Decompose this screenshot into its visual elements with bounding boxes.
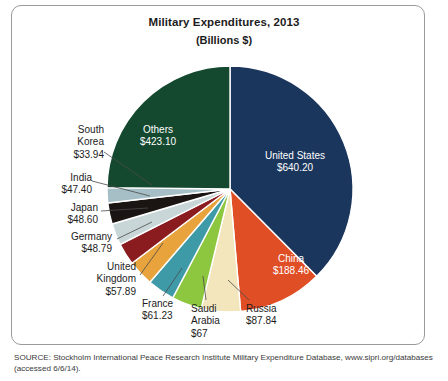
pie-label-united-states: United States $640.20 <box>250 150 340 175</box>
pie-label-united-kingdom-name: United <box>50 261 136 273</box>
source-note-line1: SOURCE: Stockholm International Peace Re… <box>14 352 434 363</box>
pie-label-united-states-value: $640.20 <box>250 162 340 174</box>
pie-label-india-name: India <box>20 172 92 184</box>
pie-label-japan: Japan $48.60 <box>26 202 98 227</box>
pie-label-saudi-arabia-name: Saudi <box>191 303 247 315</box>
pie-label-saudi-arabia-name2: Arabia <box>191 315 247 327</box>
pie-label-france-name: France <box>142 298 198 310</box>
pie-label-saudi-arabia: Saudi Arabia $67 <box>191 303 247 340</box>
pie-label-france-value: $61.23 <box>142 310 198 322</box>
pie-label-japan-name: Japan <box>26 202 98 214</box>
pie-label-south-korea: South Korea $33.94 <box>28 124 104 161</box>
source-note-line2: (accessed 6/6/14). <box>14 363 434 374</box>
pie-label-france: France $61.23 <box>142 298 198 323</box>
chart-title: Military Expenditures, 2013 <box>0 16 448 28</box>
pie-label-saudi-arabia-value: $67 <box>191 328 247 340</box>
pie-label-china-name: China <box>256 253 326 265</box>
pie-label-others: Others $423.10 <box>118 124 198 149</box>
pie-label-russia: Russia $87.84 <box>246 303 308 328</box>
pie-label-south-korea-value: $33.94 <box>28 149 104 161</box>
pie-label-china: China $188.46 <box>256 253 326 278</box>
pie-label-india: India $47.40 <box>20 172 92 197</box>
pie-label-russia-name: Russia <box>246 303 308 315</box>
pie-label-united-states-name: United States <box>250 150 340 162</box>
pie-label-united-kingdom-name2: Kingdom <box>50 273 136 285</box>
pie-label-germany-value: $48.79 <box>28 243 112 255</box>
pie-label-others-value: $423.10 <box>118 136 198 148</box>
pie-label-south-korea-name2: Korea <box>28 136 104 148</box>
pie-label-others-name: Others <box>118 124 198 136</box>
pie-label-china-value: $188.46 <box>256 265 326 277</box>
pie-label-germany-name: Germany <box>28 231 112 243</box>
pie-label-germany: Germany $48.79 <box>28 231 112 256</box>
pie-label-united-kingdom: United Kingdom $57.89 <box>50 261 136 298</box>
pie-label-india-value: $47.40 <box>20 184 92 196</box>
pie-label-russia-value: $87.84 <box>246 315 308 327</box>
chart-subtitle: (Billions $) <box>0 34 448 46</box>
pie-label-south-korea-name: South <box>28 124 104 136</box>
source-note: SOURCE: Stockholm International Peace Re… <box>14 352 434 374</box>
pie-label-japan-value: $48.60 <box>26 214 98 226</box>
pie-label-united-kingdom-value: $57.89 <box>50 286 136 298</box>
